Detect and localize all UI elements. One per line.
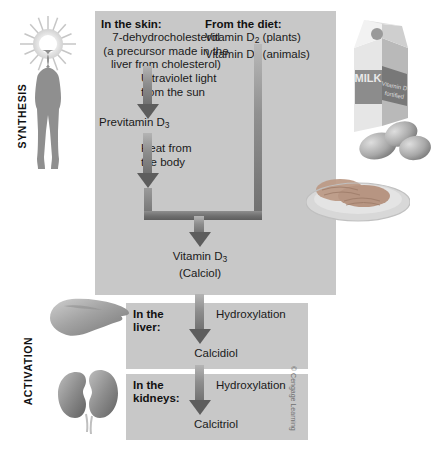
arrow-head-merged <box>189 232 211 247</box>
product-subscript: 3 <box>222 254 227 264</box>
figure-canvas: SYNTHESIS ACTIVATION <box>0 0 448 451</box>
arrow-head-liver-hydroxylation <box>189 329 211 344</box>
diet-item-source: (plants) <box>263 31 301 43</box>
arrow-shaft-heat <box>143 133 152 175</box>
product-name-line: Vitamin D3 <box>140 250 260 267</box>
previtamin-subscript: 3 <box>165 120 170 130</box>
uv-line2: from the sun <box>141 86 216 100</box>
product-alias: (Calciol) <box>140 267 260 281</box>
kidneys-icon <box>46 364 130 434</box>
kidneys-heading: In the kidneys: <box>133 379 180 404</box>
copyright-notice: © Cengage Learning <box>290 366 297 431</box>
human-silhouette-icon <box>26 48 84 176</box>
diet-heading: From the diet: <box>205 18 282 30</box>
synthesis-product: Vitamin D3 (Calciol) <box>140 250 260 280</box>
step-label-ultraviolet: Ultraviolet light from the sun <box>141 72 216 99</box>
uv-line1: Ultraviolet light <box>141 72 216 86</box>
arrow-head-heat <box>137 173 159 188</box>
arrow-head-kidneys-hydroxylation <box>189 400 211 415</box>
liver-heading-line2: liver: <box>133 321 164 334</box>
diet-item-source: (animals) <box>263 48 310 60</box>
liver-reaction-label: Hydroxylation <box>216 308 286 322</box>
kidneys-heading-line1: In the <box>133 379 180 392</box>
arrow-shaft-liver-hydroxylation <box>195 294 204 332</box>
arrow-shaft-ultraviolet <box>143 66 152 106</box>
liver-heading: In the liver: <box>133 308 164 333</box>
kidneys-product: Calcitriol <box>156 418 276 432</box>
skin-heading: In the skin: <box>101 18 162 30</box>
diet-item-name: Vitamin D <box>205 31 255 43</box>
liver-heading-line1: In the <box>133 308 164 321</box>
arrow-shaft-kidneys-hydroxylation <box>195 365 204 403</box>
milk-brand-text: MILK <box>355 72 382 84</box>
arrow-shaft-diet-to-merge <box>254 44 262 218</box>
diet-item-name: Vitamin D <box>205 48 255 60</box>
kidneys-reaction-label: Hydroxylation <box>216 379 286 393</box>
eggs-icon <box>356 118 434 166</box>
fish-plate-icon <box>306 168 410 222</box>
arrow-head-ultraviolet <box>137 104 159 119</box>
stage-label-activation: ACTIVATION <box>22 321 34 421</box>
kidneys-heading-line2: kidneys: <box>133 392 180 405</box>
product-name: Vitamin D <box>173 250 223 262</box>
liver-icon <box>44 292 130 354</box>
liver-product: Calcidiol <box>156 347 276 361</box>
